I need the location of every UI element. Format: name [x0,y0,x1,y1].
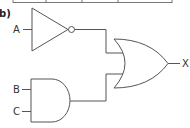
input-label-c: C [13,106,20,117]
part-label: b) [0,8,11,19]
truth-table-bottom-edge [13,0,172,3]
logic-circuit-diagram: b) A B C X [0,0,190,128]
not-gate [32,8,75,51]
input-label-b: B [13,84,20,95]
and-gate [31,79,70,122]
or-gate [114,39,168,88]
output-label-x: X [182,58,189,69]
not-bubble [69,27,75,33]
input-label-a: A [13,24,20,35]
